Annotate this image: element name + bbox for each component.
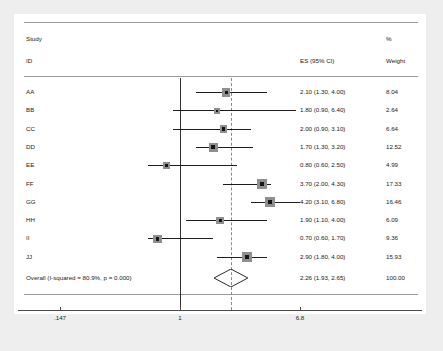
effect-size-point [211,145,215,149]
study-es-text: 3.70 (2.00, 4.30) [300,181,345,187]
study-weight-text: 17.33 [386,181,401,187]
study-weight-text: 6.09 [386,217,398,223]
study-id: BB [26,107,34,113]
effect-size-point [225,91,228,94]
study-weight-text: 15.93 [386,254,401,260]
study-id: HH [26,217,35,223]
confidence-interval-line [173,110,296,111]
effect-size-point [219,219,222,222]
effect-size-point [156,237,160,241]
study-id: CC [26,126,35,132]
x-axis-tick [180,307,181,310]
x-axis-tick-label: .147 [54,314,66,321]
x-axis-tick-label: 1 [178,314,181,321]
null-effect-line [180,78,181,310]
study-es-text: 2.10 (1.30, 4.00) [300,89,345,95]
forest-plot-graph: Study ID ES (95% CI) % Weight AA2.10 (1.… [14,14,426,314]
study-es-text: 2.90 (1.80, 4.00) [300,254,345,260]
study-weight-text: 2.64 [386,107,398,113]
x-axis-line [18,310,422,311]
confidence-interval-line [148,165,237,166]
overall-label: Overall (I-squared = 80.9%, p = 0.000) [26,275,132,281]
study-weight-text: 8.04 [386,89,398,95]
study-es-text: 1.90 (1.10, 4.00) [300,217,345,223]
study-id: EE [26,162,34,168]
header-pct: % [386,36,392,42]
header-weight: Weight [386,58,405,64]
header-id: ID [26,58,32,64]
study-weight-text: 9.36 [386,235,398,241]
study-id: JJ [26,254,32,260]
effect-size-point [165,164,168,167]
confidence-interval-line [196,92,266,93]
study-id: FF [26,181,34,187]
study-weight-text: 12.52 [386,144,401,150]
study-es-text: 0.80 (0.60, 2.50) [300,162,345,168]
effect-size-point [260,182,264,186]
header-rule-bottom [24,76,418,77]
x-axis-tick [300,307,301,310]
x-axis-tick [60,307,61,310]
study-id: II [26,235,29,241]
study-es-text: 1.80 (0.90, 6.40) [300,107,345,113]
x-axis-tick-label: 6.8 [296,314,305,321]
confidence-interval-line [196,147,252,148]
effect-size-point [268,200,272,204]
overall-weight: 100.00 [386,275,405,281]
study-es-text: 1.70 (1.30, 3.20) [300,144,345,150]
study-id: AA [26,89,34,95]
footer-rule [24,294,418,295]
forest-plot-image: Study ID ES (95% CI) % Weight AA2.10 (1.… [0,0,443,351]
plot-panel: Study ID ES (95% CI) % Weight AA2.10 (1.… [14,14,426,314]
study-weight-text: 4.99 [386,162,398,168]
header-es: ES (95% CI) [300,58,334,64]
study-id: GG [26,199,36,205]
overall-es: 2.26 (1.93, 2.65) [300,275,345,281]
study-weight-text: 16.46 [386,199,401,205]
confidence-interval-line [251,202,300,203]
effect-size-point [245,255,249,259]
header-study: Study [26,36,42,42]
confidence-interval-line [173,129,250,130]
study-id: DD [26,144,35,150]
confidence-interval-line [186,220,267,221]
study-es-text: 2.00 (0.90, 3.10) [300,126,345,132]
study-es-text: 0.70 (0.60, 1.70) [300,235,345,241]
effect-size-point [222,127,225,130]
study-weight-text: 6.64 [386,126,398,132]
effect-size-point [216,110,218,112]
header-rule-top [24,22,418,23]
study-es-text: 4.20 (3.10, 6.80) [300,199,345,205]
